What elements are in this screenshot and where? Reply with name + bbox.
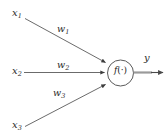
weight-label-w3-base: w bbox=[53, 87, 61, 98]
activation-function-argument: (·) bbox=[117, 65, 127, 75]
input-label-x2-base: x bbox=[12, 65, 18, 76]
input-label-x2-sub: 2 bbox=[18, 70, 22, 78]
input-label-x1: x1 bbox=[12, 8, 22, 18]
output-label-y: y bbox=[144, 53, 150, 63]
input-label-x1-base: x bbox=[12, 7, 18, 18]
input-label-x3-sub: 3 bbox=[18, 124, 22, 132]
neuron-diagram: f(·) x1 x2 x3 w1 w2 w3 y bbox=[0, 0, 166, 140]
weight-label-w3-sub: 3 bbox=[61, 92, 65, 100]
weight-label-w2-sub: 2 bbox=[65, 64, 69, 72]
weight-label-w2-base: w bbox=[57, 59, 65, 70]
weight-label-w2: w2 bbox=[57, 60, 69, 70]
input-label-x3: x3 bbox=[12, 120, 22, 130]
input-label-x2: x2 bbox=[12, 66, 22, 76]
input-label-x1-sub: 1 bbox=[18, 12, 22, 20]
weight-label-w1-sub: 1 bbox=[65, 28, 69, 36]
neuron-diagram-svg bbox=[0, 0, 166, 140]
input-label-x3-base: x bbox=[12, 119, 18, 130]
weight-label-w3: w3 bbox=[53, 88, 65, 98]
weight-label-w1: w1 bbox=[57, 24, 69, 34]
weight-label-w1-base: w bbox=[57, 23, 65, 34]
activation-function-label: f(·) bbox=[108, 66, 133, 75]
